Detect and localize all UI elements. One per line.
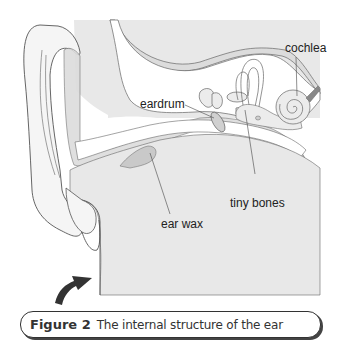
lower-tissue <box>70 134 320 295</box>
label-cochlea: cochlea <box>285 42 326 54</box>
figure-caption: Figure 2 The internal structure of the e… <box>20 311 321 338</box>
round-window <box>256 116 261 120</box>
cochlea-spiral <box>276 90 310 124</box>
figure-number: Figure 2 <box>30 317 91 332</box>
arrow-icon <box>55 276 92 305</box>
label-eardrum: eardrum <box>140 98 185 110</box>
caption-text: The internal structure of the ear <box>97 318 283 332</box>
label-tiny-bones: tiny bones <box>230 197 285 209</box>
label-ear-wax: ear wax <box>161 218 203 230</box>
